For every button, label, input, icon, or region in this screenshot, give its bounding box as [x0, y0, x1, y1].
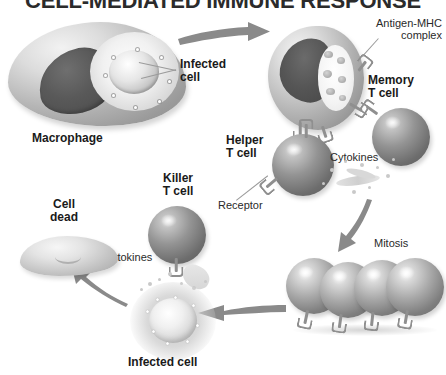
memory-t-cell [372, 108, 430, 166]
dead-cell [20, 236, 118, 276]
infected-cell-speck [192, 304, 195, 307]
clone-t-cell-receptor [399, 309, 413, 325]
infected-cell-speck [146, 310, 149, 313]
cytokine-dot [322, 182, 325, 185]
cytokine-dot [368, 186, 371, 189]
memory-t-cell-receptor [363, 102, 381, 119]
infected-cell-speck [152, 330, 155, 333]
vacuole-speck [112, 56, 115, 59]
macrophage-label: Macrophage [32, 132, 103, 145]
killer-t-cell [148, 206, 206, 264]
cytokine-dot [168, 272, 172, 276]
infected-cell-bottom-label: Infected cell [128, 356, 197, 369]
cytokine-dot [352, 190, 356, 194]
apc-vesicle [338, 76, 346, 83]
vacuole-speck [104, 74, 107, 77]
infected-cell-speck [196, 324, 199, 327]
killer-t-cell-label: Killer T cell [152, 172, 204, 198]
infected-cell-speck [174, 296, 177, 299]
diagram-canvas: CELL-MEDIATED IMMUNE RESPONSE Macrophage… [0, 0, 446, 375]
helper-t-cell-label: Helper T cell [226, 134, 263, 160]
page-title: CELL-MEDIATED IMMUNE RESPONSE [0, 0, 446, 14]
cytokine-dot [360, 163, 364, 167]
engulfed-infected-cell [109, 50, 159, 94]
apc-vesicle [323, 70, 332, 78]
clone-t-cell-receptor [365, 311, 378, 326]
cytokine-dot [386, 174, 390, 178]
infected-cell-speck [186, 340, 189, 343]
cytokine-dot [344, 160, 347, 163]
antigen-presenting-cell [268, 26, 364, 130]
infected-cell-core [149, 298, 197, 343]
clone-t-cell-receptor [299, 309, 314, 325]
apc-vesicle [339, 95, 346, 101]
clone-t-cell-receptor [333, 313, 347, 329]
clone-t-cell [386, 258, 444, 316]
memory-t-cell-label: Memory T cell [368, 74, 414, 100]
infected-cell-top-label: Infected cell [180, 58, 226, 84]
helper-t-cell-binding-receptor [300, 124, 312, 138]
antigen-mhc-label: Antigen-MHC complex [362, 18, 442, 42]
cytokines-right-label: Cytokines [330, 152, 378, 164]
vacuole-speck [168, 80, 171, 83]
cytokine-dot [330, 168, 334, 172]
apc-vesicle [324, 51, 333, 58]
receptor-label: Receptor [218, 200, 263, 212]
cytokine-dot [392, 158, 395, 161]
vacuole-speck [160, 56, 163, 59]
cytokine-dot [376, 166, 379, 169]
infected-cell-target [130, 282, 216, 360]
arrow-macrophage-to-apc [176, 22, 272, 48]
cytokine-dot [158, 278, 161, 281]
helper-t-cell [272, 134, 334, 196]
vacuole-speck [158, 100, 161, 103]
infected-cell-speck [156, 298, 159, 301]
killer-t-cell-receptor [170, 258, 182, 272]
vacuole-speck [136, 48, 139, 51]
cell-dead-label: Cell dead [42, 198, 86, 224]
vacuole-speck [134, 106, 137, 109]
mitosis-label: Mitosis [374, 238, 408, 250]
vacuole-speck [112, 94, 115, 97]
infected-cell-speck [166, 342, 169, 345]
